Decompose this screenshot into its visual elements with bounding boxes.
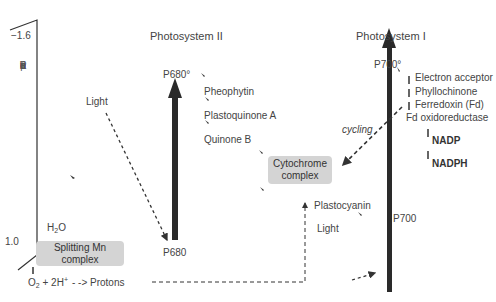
ps2-chain-2: Plastoquinone A	[204, 110, 276, 121]
ps1-product-nadp: NADP	[432, 135, 460, 146]
axis-letter: t.	[18, 58, 28, 74]
ps1-excited: P700°	[374, 59, 401, 70]
ps1-chain-1: Electron acceptor	[415, 72, 493, 83]
oxygen: O	[28, 277, 36, 288]
water-label: H2O	[47, 222, 66, 234]
axis-bottom-label: 1.0	[5, 236, 19, 247]
cytochrome-line1: Cytochrome	[273, 158, 327, 170]
cytochrome-complex-box: Cytochromecomplex	[268, 156, 332, 184]
hydrogen-sup: +	[64, 276, 68, 283]
hydrogen: + 2H	[40, 277, 64, 288]
ps1-chain-3: Ferredoxin (Fd)	[415, 99, 484, 110]
ps2-chain-1: Pheophytin	[204, 86, 254, 97]
ps2-light: Light	[86, 96, 108, 107]
ps1-chain-2: Phyllochinone	[415, 86, 477, 97]
ps1-chain-4: Fd oxidoreductase	[406, 112, 488, 123]
axis-top-label: −1.6	[11, 30, 31, 41]
ps1-title: Photosystem I	[356, 30, 426, 42]
cycling-label: cycling	[342, 124, 373, 135]
mn-complex-label: Splitting Mn complex	[36, 242, 124, 266]
ps2-excited: P680°	[163, 69, 190, 80]
products-bottom: O2 + 2H+- -> Protons	[28, 276, 125, 289]
water-o: O	[58, 222, 66, 233]
protons-label: Protons	[90, 277, 124, 288]
plastocyanin-label: Plastocyanin	[314, 200, 371, 211]
mn-complex-box: Splitting Mn complex	[36, 241, 124, 266]
ps2-chain-3: Quinone B	[204, 134, 251, 145]
ps2-title: Photosystem II	[150, 30, 223, 42]
ps2-ground: P680	[163, 247, 186, 258]
ps1-product-nadph: NADPH	[432, 158, 468, 169]
ps1-ground: P700	[393, 213, 416, 224]
cytochrome-line2: complex	[273, 170, 327, 182]
ps1-light: Light	[317, 223, 339, 234]
